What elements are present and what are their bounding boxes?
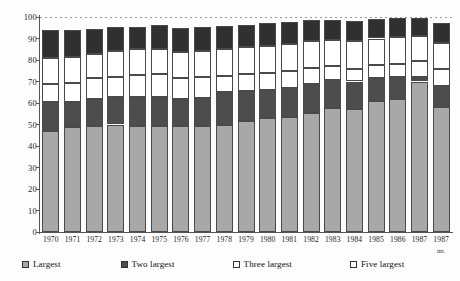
- bar-column[interactable]: [411, 17, 428, 232]
- bar-segment[interactable]: [346, 82, 363, 110]
- bar-segment[interactable]: [411, 61, 428, 77]
- bar-segment[interactable]: [238, 74, 255, 91]
- bar-segment[interactable]: [42, 131, 59, 232]
- bar-segment[interactable]: [346, 69, 363, 82]
- bar-column[interactable]: [107, 17, 124, 232]
- bar-column[interactable]: [368, 17, 385, 232]
- bar-segment[interactable]: [324, 80, 341, 108]
- bar-segment[interactable]: [281, 22, 298, 44]
- bar-segment[interactable]: [389, 18, 406, 37]
- bar-column[interactable]: [86, 17, 103, 232]
- bar-segment[interactable]: [86, 54, 103, 79]
- bar-segment[interactable]: [368, 19, 385, 38]
- bar-segment[interactable]: [368, 101, 385, 232]
- bar-segment[interactable]: [42, 102, 59, 131]
- bar-segment[interactable]: [172, 78, 189, 98]
- bar-column[interactable]: [433, 17, 450, 232]
- bar-column[interactable]: [238, 17, 255, 232]
- bar-segment[interactable]: [368, 65, 385, 78]
- bar-segment[interactable]: [433, 107, 450, 232]
- bar-segment[interactable]: [151, 74, 168, 97]
- bar-segment[interactable]: [216, 49, 233, 76]
- bar-segment[interactable]: [238, 47, 255, 74]
- bar-segment[interactable]: [194, 77, 211, 97]
- bar-segment[interactable]: [86, 126, 103, 232]
- bar-segment[interactable]: [216, 76, 233, 92]
- bar-segment[interactable]: [151, 49, 168, 74]
- bar-segment[interactable]: [64, 83, 81, 102]
- bar-column[interactable]: [151, 17, 168, 232]
- bar-column[interactable]: [216, 17, 233, 232]
- bar-column[interactable]: [324, 17, 341, 232]
- bar-segment[interactable]: [389, 77, 406, 99]
- bar-column[interactable]: [172, 17, 189, 232]
- legend-item-two-largest[interactable]: Two largest: [121, 259, 175, 269]
- bar-segment[interactable]: [86, 99, 103, 126]
- bar-segment[interactable]: [324, 108, 341, 232]
- bar-segment[interactable]: [346, 41, 363, 69]
- legend-item-three-largest[interactable]: Three largest: [233, 259, 292, 269]
- bar-segment[interactable]: [346, 109, 363, 232]
- bar-segment[interactable]: [172, 52, 189, 78]
- bar-segment[interactable]: [259, 90, 276, 118]
- bar-segment[interactable]: [259, 73, 276, 90]
- bar-segment[interactable]: [216, 92, 233, 124]
- bar-segment[interactable]: [42, 30, 59, 58]
- bar-segment[interactable]: [194, 126, 211, 232]
- bar-segment[interactable]: [433, 86, 450, 108]
- bar-segment[interactable]: [303, 84, 320, 113]
- bar-segment[interactable]: [259, 118, 276, 232]
- bar-segment[interactable]: [238, 25, 255, 48]
- bar-segment[interactable]: [129, 97, 146, 126]
- bar-segment[interactable]: [411, 18, 428, 36]
- bar-segment[interactable]: [411, 36, 428, 61]
- bar-segment[interactable]: [346, 21, 363, 40]
- bar-segment[interactable]: [433, 23, 450, 42]
- bar-segment[interactable]: [151, 97, 168, 126]
- bar-segment[interactable]: [281, 71, 298, 88]
- bar-segment[interactable]: [303, 68, 320, 84]
- bar-column[interactable]: [389, 17, 406, 232]
- bar-segment[interactable]: [433, 69, 450, 86]
- bar-segment[interactable]: [172, 126, 189, 232]
- bar-segment[interactable]: [42, 84, 59, 102]
- bar-segment[interactable]: [194, 27, 211, 52]
- bar-segment[interactable]: [281, 88, 298, 117]
- bar-segment[interactable]: [368, 78, 385, 101]
- bar-segment[interactable]: [281, 117, 298, 232]
- bar-segment[interactable]: [238, 121, 255, 232]
- bar-column[interactable]: [303, 17, 320, 232]
- bar-column[interactable]: [42, 17, 59, 232]
- bar-segment[interactable]: [324, 20, 341, 39]
- bar-segment[interactable]: [194, 98, 211, 126]
- bar-segment[interactable]: [129, 49, 146, 75]
- bar-segment[interactable]: [303, 41, 320, 68]
- bar-column[interactable]: [281, 17, 298, 232]
- bar-segment[interactable]: [389, 99, 406, 232]
- bar-segment[interactable]: [86, 78, 103, 98]
- bar-segment[interactable]: [433, 43, 450, 69]
- legend-item-largest[interactable]: Largest: [22, 259, 61, 269]
- bar-segment[interactable]: [303, 113, 320, 232]
- bar-segment[interactable]: [129, 75, 146, 97]
- bar-segment[interactable]: [259, 46, 276, 73]
- bar-segment[interactable]: [107, 125, 124, 233]
- bar-column[interactable]: [194, 17, 211, 232]
- bar-segment[interactable]: [86, 29, 103, 54]
- bar-segment[interactable]: [107, 27, 124, 52]
- bar-segment[interactable]: [303, 20, 320, 40]
- bar-segment[interactable]: [64, 57, 81, 83]
- bar-segment[interactable]: [129, 126, 146, 232]
- bar-segment[interactable]: [216, 26, 233, 50]
- bar-segment[interactable]: [107, 51, 124, 77]
- bar-segment[interactable]: [64, 30, 81, 57]
- bar-segment[interactable]: [238, 91, 255, 121]
- bar-segment[interactable]: [324, 40, 341, 67]
- bar-segment[interactable]: [411, 82, 428, 233]
- bar-segment[interactable]: [216, 125, 233, 233]
- bar-column[interactable]: [259, 17, 276, 232]
- bar-segment[interactable]: [368, 39, 385, 66]
- bar-segment[interactable]: [281, 44, 298, 71]
- bar-segment[interactable]: [64, 102, 81, 127]
- bar-segment[interactable]: [129, 27, 146, 50]
